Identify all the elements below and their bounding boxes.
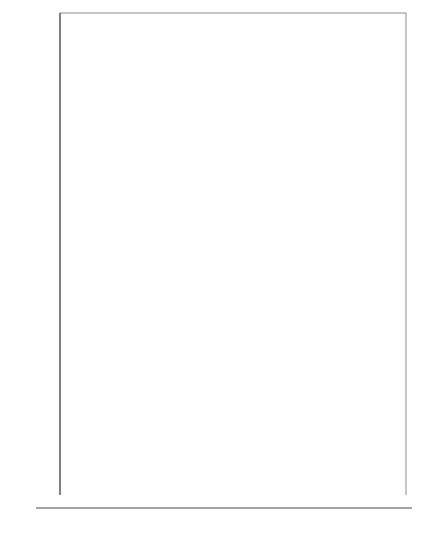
revenue-cost-area-chart: [0, 0, 423, 537]
chart-figure: [0, 0, 423, 537]
plot-background: [60, 13, 406, 495]
